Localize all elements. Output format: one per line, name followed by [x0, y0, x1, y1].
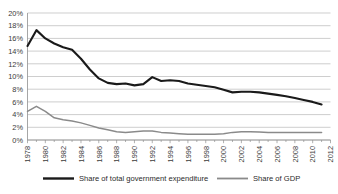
- y-tick-label: 4%: [12, 110, 23, 119]
- x-tick-label: 2006: [273, 146, 282, 162]
- x-tick-label: 1980: [41, 146, 50, 162]
- x-tick-label: 2004: [255, 146, 264, 162]
- legend-label: Share of GDP: [253, 174, 300, 183]
- y-tick-label: 6%: [12, 98, 23, 107]
- x-tick-label: 1984: [77, 146, 86, 162]
- chart-legend: Share of total government expenditureSha…: [43, 174, 300, 183]
- legend-label: Share of total government expenditure: [79, 174, 208, 183]
- x-tick-label: 2008: [291, 146, 300, 162]
- y-tick-label: 20%: [8, 9, 23, 18]
- x-tick-label: 1994: [166, 146, 175, 162]
- x-tick-label: 1982: [59, 146, 68, 162]
- y-tick-label: 8%: [12, 85, 23, 94]
- y-tick-label: 16%: [8, 34, 23, 43]
- x-tick-label: 2012: [326, 146, 335, 162]
- x-tick-label: 1990: [130, 146, 139, 162]
- x-tick-label: 1978: [23, 146, 32, 162]
- y-tick-label: 10%: [8, 72, 23, 81]
- y-tick-label: 0%: [12, 136, 23, 145]
- x-tick-label: 2000: [219, 146, 228, 162]
- y-tick-label: 18%: [8, 21, 23, 30]
- y-tick-label: 2%: [12, 123, 23, 132]
- x-tick-label: 1996: [184, 146, 193, 162]
- x-tick-label: 1992: [148, 146, 157, 162]
- x-tick-label: 1988: [112, 146, 121, 162]
- y-tick-label: 14%: [8, 47, 23, 56]
- x-tick-label: 1986: [95, 146, 104, 162]
- y-tick-label: 12%: [8, 60, 23, 69]
- line-chart: 0%2%4%6%8%10%12%14%16%18%20% 19781980198…: [0, 0, 338, 194]
- x-tick-label: 1998: [202, 146, 211, 162]
- x-tick-label: 2002: [237, 146, 246, 162]
- x-tick-label: 2010: [308, 146, 317, 162]
